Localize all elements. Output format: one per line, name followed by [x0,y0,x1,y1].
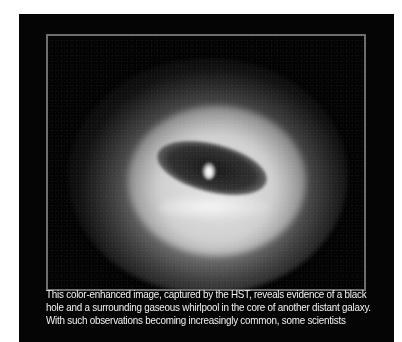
figure-caption: This color-enhanced image, captured by t… [46,288,362,327]
galaxy-bright-arc [160,194,270,220]
page: This color-enhanced image, captured by t… [0,0,402,342]
caption-line-3: With such observations becoming increasi… [46,314,362,327]
galaxy-nucleus [202,162,216,180]
figure-panel: This color-enhanced image, captured by t… [19,14,394,342]
image-frame [46,34,366,291]
caption-line-2: hole and a surrounding gaseous whirlpool… [46,301,362,314]
caption-line-1: This color-enhanced image, captured by t… [46,288,362,301]
